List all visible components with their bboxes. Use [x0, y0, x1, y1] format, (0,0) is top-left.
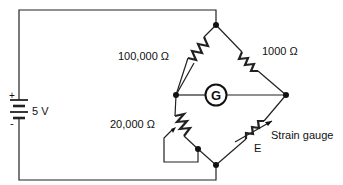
strain-gauge-arrow-line: [235, 121, 272, 142]
node-bottom: [213, 162, 219, 168]
battery-icon: + - 5 V: [9, 90, 49, 136]
resistor-r1-label: 100,000 Ω: [118, 50, 169, 62]
battery-voltage-label: 5 V: [32, 105, 49, 117]
node-left: [173, 92, 179, 98]
resistor-r2-label: 1000 Ω: [262, 45, 298, 57]
galvanometer-branch: G: [176, 85, 286, 106]
strain-gauge-arrow-icon: [265, 121, 272, 126]
node-right: [283, 92, 289, 98]
bridge-arm-top-right: [216, 25, 286, 95]
rheostat-arrow-icon: [171, 127, 176, 133]
battery-plus-sign: +: [9, 90, 15, 101]
bridge-arm-bottom-left: [164, 95, 216, 165]
wheatstone-bridge-diagram: + - 5 V 100,000 Ω 1000 Ω G 20,000 Ω: [0, 0, 343, 185]
strain-gauge-label: Strain gauge: [271, 129, 333, 141]
bridge-arm-top-left: [176, 25, 216, 95]
node-rheostat: [195, 146, 201, 152]
strain-gauge-symbol-label: E: [254, 142, 261, 154]
node-top: [213, 22, 219, 28]
galvanometer-label: G: [211, 88, 221, 103]
battery-minus-sign: -: [10, 117, 14, 129]
resistor-r3-label: 20,000 Ω: [110, 118, 155, 130]
